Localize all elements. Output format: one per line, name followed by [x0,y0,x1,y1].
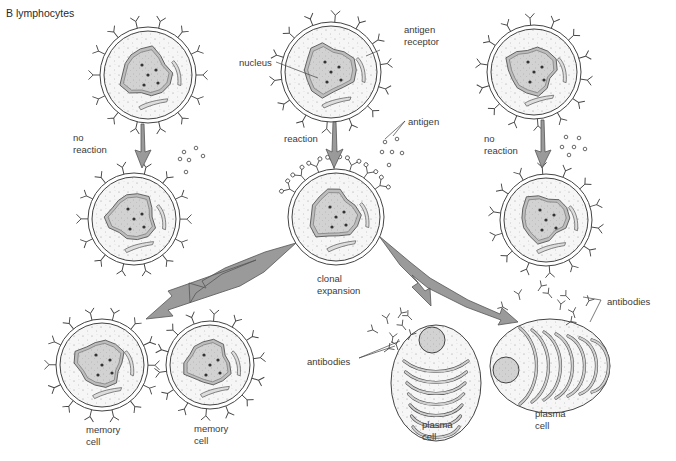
antigen-receptor-icon [253,352,266,363]
antigen-receptor-icon [580,75,593,86]
antigen-receptor-icon [76,214,88,223]
b-lymphocyte-diagram [0,0,676,461]
free-antigens [178,135,587,174]
antigen-receptor-icon [148,361,160,370]
antibody-icon [367,325,380,337]
antigen-receptor-icon [180,215,192,224]
antibody-icon [382,313,392,325]
antigen-receptor-icon [475,59,488,70]
label-antigen-receptor: antigen receptor [404,24,439,48]
title-b-lymphocytes: B lymphocytes [6,7,74,19]
plasma-cell-2 [490,280,610,413]
antigen-receptor-icon [269,75,282,86]
no-reaction-left-cell [76,162,191,276]
label-clonal-expansion: clonal expansion [317,273,360,297]
label-reaction: reaction [284,133,318,145]
antigen-receptor-icon [209,309,219,321]
antigen-receptor-icon [380,58,393,69]
label-memory-cell-2: memory cell [194,423,228,447]
lymphocyte-right [475,13,592,130]
antigen-receptor-icon [591,222,604,233]
label-antibodies-left: antibodies [307,356,350,368]
antigen-receptor-icon [330,10,340,22]
cells-layer [44,10,610,441]
antibody-icon [568,307,579,319]
activated-cell [279,155,391,265]
antigen-receptor-icon [545,266,555,278]
label-antibodies-right: antibodies [607,296,650,308]
antigen-receptor-icon [154,367,167,378]
antigen-receptor-icon [322,122,332,134]
antigen-receptor-icon [201,408,211,420]
antibody-icon [397,320,410,333]
lymphocyte-left [89,16,208,134]
antigen-receptor-icon [89,70,101,79]
antibody-icon [514,289,524,301]
lymphocyte-center [269,10,392,133]
label-plasma-cell-2: plasma cell [535,408,566,432]
antigen-receptor-icon [525,13,535,25]
antigen-receptor-icon [488,207,501,218]
arrow-to-memory-cells [146,243,296,319]
antibody-icon [382,343,395,355]
no-reaction-right-cell [488,162,603,277]
antibody-icon [543,288,556,301]
arrow-reaction [326,122,343,168]
memory-cell-2 [154,309,265,420]
label-plasma-cell-1: plasma cell [422,419,453,443]
memory-cell-1 [44,308,159,422]
antigen-receptor-icon [44,360,56,369]
label-antigen: antigen [408,116,439,128]
antibody-icon [395,307,407,320]
antibody-icon [535,280,547,293]
label-memory-cell-1: memory cell [86,424,120,448]
nucleus-icon [419,327,445,353]
arrow-no-reaction-right [535,120,551,168]
arrow-to-plasma-cells [379,236,518,325]
antibody-icon [388,333,397,344]
antibody-icon [560,290,573,303]
label-nucleus: nucleus [239,57,272,69]
nucleus-icon [493,357,519,383]
label-no-reaction-right: no reaction [484,133,518,157]
antibody-icon [556,300,565,311]
label-no-reaction-left: no reaction [73,132,107,156]
antigen-receptor-icon [196,70,208,79]
antibody-icon [402,310,415,323]
